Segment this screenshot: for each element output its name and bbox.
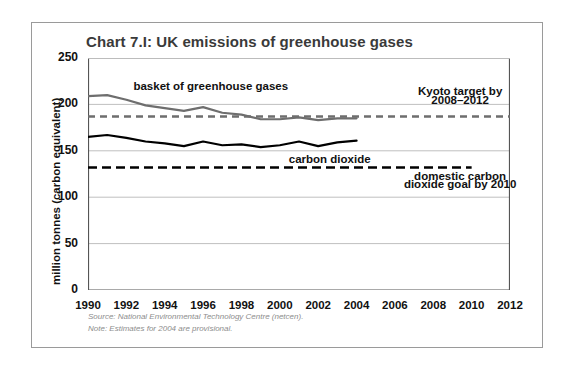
x-tick-label-2004: 2004	[344, 299, 370, 311]
annotation-3: carbon dioxide	[289, 153, 371, 166]
annotation-5: dioxide goal by 2010	[404, 178, 516, 191]
annotation-0: basket of greenhouse gases	[133, 80, 288, 93]
x-tick-label-1990: 1990	[75, 299, 101, 311]
y-tick-label-0: 0	[38, 282, 78, 296]
annotation-2: 2008–2012	[431, 94, 489, 107]
x-tick-label-2008: 2008	[420, 299, 446, 311]
y-tick-label-100: 100	[38, 189, 78, 203]
y-tick-label-250: 250	[38, 50, 78, 64]
x-tick-label-2006: 2006	[382, 299, 408, 311]
y-tick-label-150: 150	[38, 143, 78, 157]
chart-footnotes: Source: National Environmental Technolog…	[88, 311, 303, 334]
chart-title: Chart 7.I: UK emissions of greenhouse ga…	[86, 33, 413, 50]
x-tick-label-2000: 2000	[267, 299, 293, 311]
x-tick-label-1998: 1998	[229, 299, 255, 311]
y-tick-label-200: 200	[38, 96, 78, 110]
x-tick-label-2010: 2010	[459, 299, 485, 311]
y-tick-label-50: 50	[38, 236, 78, 250]
x-tick-label-2012: 2012	[497, 299, 523, 311]
source-note: Source: National Environmental Technolog…	[88, 311, 303, 323]
provisional-note: Note: Estimates for 2004 are provisional…	[88, 323, 303, 335]
series-line-1	[88, 135, 357, 147]
chart-figure-panel: Chart 7.I: UK emissions of greenhouse ga…	[31, 22, 543, 348]
x-tick-label-2002: 2002	[305, 299, 331, 311]
x-tick-label-1994: 1994	[152, 299, 178, 311]
x-tick-label-1996: 1996	[190, 299, 216, 311]
x-tick-label-1992: 1992	[114, 299, 140, 311]
